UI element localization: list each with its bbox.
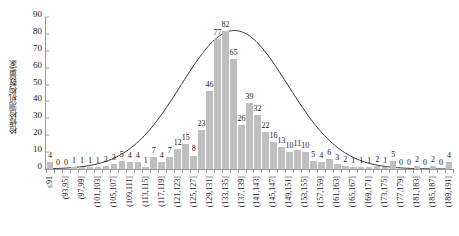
y-tick-label: 10 <box>33 145 42 154</box>
y-tick-label: 90 <box>33 10 42 19</box>
x-tick-label: (189,191] <box>445 176 453 207</box>
x-tick-mark <box>317 169 318 173</box>
x-tick-mark <box>333 169 334 173</box>
x-tick-mark <box>301 169 302 173</box>
bar <box>174 149 181 169</box>
x-tick-mark <box>174 169 175 173</box>
y-tick-mark <box>45 118 49 119</box>
x-tick-mark <box>158 169 159 173</box>
x-axis-line <box>45 169 453 170</box>
bar <box>127 162 134 169</box>
x-tick-label: (181,183] <box>413 176 421 207</box>
x-tick-mark <box>349 169 350 173</box>
x-tick-mark <box>309 169 310 173</box>
x-tick-label: (157,159] <box>317 176 325 207</box>
y-axis-title: 检修检测机构数量/家 <box>6 32 22 162</box>
x-tick-label: (169,171] <box>365 176 373 207</box>
x-tick-label: (93,95] <box>62 176 70 199</box>
x-tick-label: (129,131] <box>206 176 214 207</box>
x-tick-mark <box>150 169 151 173</box>
x-tick-label: (101,103] <box>94 176 102 207</box>
bar-value-label: 5 <box>387 151 399 159</box>
x-tick-mark <box>134 169 135 173</box>
bar <box>214 39 221 169</box>
x-tick-mark <box>102 169 103 173</box>
y-tick-label: 70 <box>33 43 42 52</box>
x-tick-mark <box>46 169 47 173</box>
x-tick-label: (177,179] <box>397 176 405 207</box>
plot-area: 4001111235441747121582346778265263932221… <box>46 17 453 169</box>
x-tick-mark <box>285 169 286 173</box>
bar <box>318 162 325 169</box>
x-tick-mark <box>110 169 111 173</box>
x-tick-mark <box>190 169 191 173</box>
x-tick-mark <box>246 169 247 173</box>
x-tick-mark <box>437 169 438 173</box>
x-tick-label: (185,187] <box>429 176 437 207</box>
x-tick-label: (105,107] <box>110 176 118 207</box>
bar-value-label: 4 <box>443 152 455 160</box>
x-tick-label: (161,163] <box>333 176 341 207</box>
bar-value-label: 22 <box>259 122 271 130</box>
y-tick-mark <box>45 101 49 102</box>
x-tick-label: (173,175] <box>381 176 389 207</box>
x-tick-label: (113,115] <box>142 176 150 207</box>
y-tick-label: 40 <box>33 94 42 103</box>
x-tick-mark <box>238 169 239 173</box>
x-tick-mark <box>230 169 231 173</box>
bar <box>286 152 293 169</box>
x-tick-mark <box>389 169 390 173</box>
x-tick-mark <box>373 169 374 173</box>
bar-value-label: 10 <box>299 142 311 150</box>
x-tick-label: (165,167] <box>349 176 357 207</box>
bar <box>294 150 301 169</box>
bar-value-label: 15 <box>180 134 192 142</box>
x-tick-label: ≤91 <box>46 176 54 188</box>
x-tick-mark <box>78 169 79 173</box>
x-tick-label: (121,123] <box>174 176 182 207</box>
x-tick-mark <box>357 169 358 173</box>
x-tick-mark <box>222 169 223 173</box>
y-tick-mark <box>45 152 49 153</box>
x-tick-label: (141,143] <box>253 176 261 207</box>
y-tick-mark <box>45 50 49 51</box>
bar-value-label: 39 <box>243 93 255 101</box>
bar-value-label: 65 <box>227 49 239 57</box>
histogram-chart: 检修检测机构数量/家 0102030405060708090 400111123… <box>0 0 459 236</box>
x-tick-label: (125,127] <box>190 176 198 207</box>
y-axis-tick-labels: 0102030405060708090 <box>22 14 42 170</box>
y-tick-mark <box>45 67 49 68</box>
y-tick-label: 30 <box>33 111 42 120</box>
bar <box>206 91 213 169</box>
x-tick-label: (117,119] <box>158 176 166 207</box>
x-tick-mark <box>429 169 430 173</box>
bar <box>238 125 245 169</box>
bar <box>166 157 173 169</box>
y-tick-mark <box>45 135 49 136</box>
x-tick-mark <box>445 169 446 173</box>
x-tick-mark <box>198 169 199 173</box>
x-tick-mark <box>182 169 183 173</box>
x-tick-mark <box>166 169 167 173</box>
x-tick-mark <box>206 169 207 173</box>
x-tick-mark <box>341 169 342 173</box>
x-tick-mark <box>325 169 326 173</box>
x-tick-mark <box>293 169 294 173</box>
x-tick-mark <box>453 169 454 173</box>
x-tick-mark <box>261 169 262 173</box>
x-tick-label: (153,155] <box>301 176 309 207</box>
y-tick-label: 60 <box>33 60 42 69</box>
x-tick-mark <box>397 169 398 173</box>
x-tick-mark <box>277 169 278 173</box>
y-tick-mark <box>45 33 49 34</box>
bar <box>158 162 165 169</box>
x-tick-mark <box>253 169 254 173</box>
x-tick-label: (149,151] <box>285 176 293 207</box>
y-tick-mark <box>45 17 49 18</box>
bar <box>278 147 285 169</box>
x-tick-mark <box>142 169 143 173</box>
x-tick-label: (97,99] <box>78 176 86 199</box>
x-tick-mark <box>269 169 270 173</box>
x-tick-mark <box>214 169 215 173</box>
bar <box>119 161 126 169</box>
